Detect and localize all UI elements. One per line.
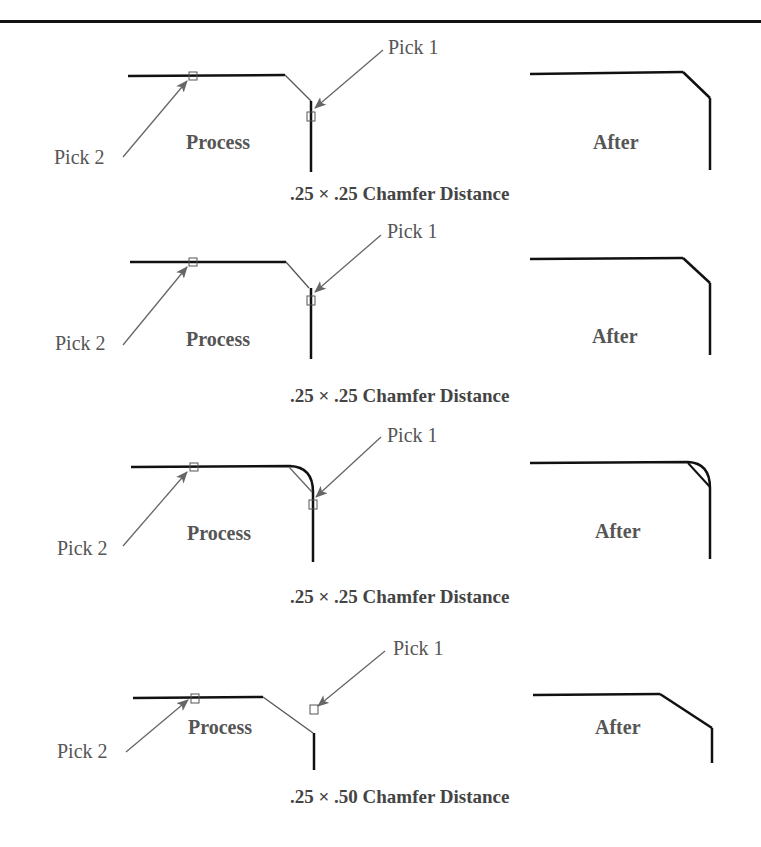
pick-2-label: Pick 2	[54, 146, 105, 169]
process-label: Process	[188, 716, 252, 739]
pick-1-arrow	[318, 651, 385, 706]
pick-1-arrow	[316, 437, 381, 497]
process-label: Process	[187, 522, 251, 545]
pick-1-label: Pick 1	[387, 220, 438, 243]
panel-caption: .25 × .25 Chamfer Distance	[290, 586, 509, 608]
pick-2-arrow	[123, 472, 187, 546]
panel-3-after-geometry	[530, 462, 710, 559]
panel-caption: .25 × .50 Chamfer Distance	[290, 786, 509, 808]
pick-2-arrow	[123, 267, 187, 345]
after-label: After	[593, 131, 639, 154]
panel-4-process-geometry	[126, 651, 385, 770]
after-label: After	[595, 716, 641, 739]
chamfer-diagram	[0, 0, 761, 847]
after-label: After	[595, 520, 641, 543]
pick-1-arrow	[315, 235, 381, 292]
panel-caption: .25 × .25 Chamfer Distance	[290, 183, 509, 205]
process-label: Process	[186, 131, 250, 154]
pick-2-arrow	[123, 81, 187, 157]
pick-1-label: Pick 1	[393, 637, 444, 660]
panel-caption: .25 × .25 Chamfer Distance	[290, 385, 509, 407]
panel-1-process-geometry	[123, 50, 383, 172]
process-label: Process	[186, 328, 250, 351]
pick-1-arrow	[315, 50, 383, 108]
after-label: After	[592, 325, 638, 348]
panel-2-process-geometry	[123, 235, 381, 359]
pick-2-label: Pick 2	[57, 537, 108, 560]
pick-2-arrow	[126, 700, 188, 752]
pick-1-marker	[310, 705, 318, 714]
pick-1-label: Pick 1	[388, 36, 439, 59]
pick-2-label: Pick 2	[55, 332, 106, 355]
panel-3-process-geometry	[123, 437, 381, 562]
panel-1-after-geometry	[530, 72, 710, 170]
pick-2-label: Pick 2	[57, 740, 108, 763]
pick-1-label: Pick 1	[387, 424, 438, 447]
